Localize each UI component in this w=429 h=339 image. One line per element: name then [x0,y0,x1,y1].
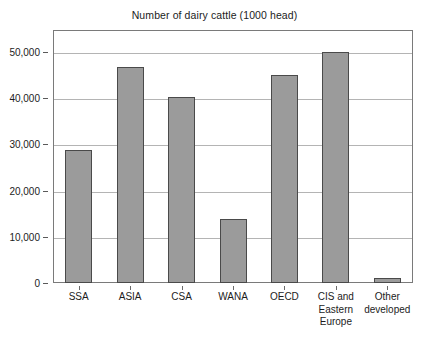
x-axis: SSAASIACSAWANAOECDCIS andEasternEuropeOt… [53,286,413,339]
x-tick-label: CSA [156,291,207,304]
y-tick-label: 30,000 [9,139,40,150]
y-tick-label: 10,000 [9,231,40,242]
bar [271,75,298,283]
x-tick-label-line: Eastern [310,304,361,317]
y-tick-mark [43,191,48,192]
y-tick-mark [43,52,48,53]
y-tick-mark [43,144,48,145]
y-tick-mark [43,237,48,238]
x-tick-mark [387,286,388,290]
y-tick-label: 20,000 [9,185,40,196]
bar-chart-figure: Number of dairy cattle (1000 head) 010,0… [0,0,429,339]
bar [168,97,195,283]
bar [374,278,401,283]
bars-layer [53,30,413,283]
x-tick-label-line: Europe [310,316,361,329]
x-tick-label: WANA [207,291,258,304]
bar [65,150,92,283]
x-tick-label-line: WANA [207,291,258,304]
chart-title: Number of dairy cattle (1000 head) [0,9,429,21]
bar [117,67,144,283]
x-tick-mark [130,286,131,290]
x-tick-label-line: ASIA [104,291,155,304]
x-tick-label-line: Other [362,291,413,304]
y-axis: 010,00020,00030,00040,00050,000 [0,30,48,283]
y-tick-mark [43,98,48,99]
bar [220,219,247,283]
x-tick-label-line: developed [362,304,413,317]
bar [322,52,349,283]
x-tick-mark [284,286,285,290]
y-tick-label: 0 [34,278,40,289]
x-tick-label: ASIA [104,291,155,304]
x-tick-label: OECD [259,291,310,304]
x-tick-mark [233,286,234,290]
x-tick-mark [182,286,183,290]
x-tick-label: CIS andEasternEurope [310,291,361,329]
x-tick-label: Otherdeveloped [362,291,413,316]
y-tick-label: 50,000 [9,47,40,58]
x-tick-label-line: SSA [53,291,104,304]
x-tick-mark [79,286,80,290]
x-tick-mark [336,286,337,290]
y-tick-mark [43,283,48,284]
x-tick-label-line: CSA [156,291,207,304]
y-tick-label: 40,000 [9,93,40,104]
x-tick-label-line: OECD [259,291,310,304]
x-tick-label: SSA [53,291,104,304]
x-tick-label-line: CIS and [310,291,361,304]
